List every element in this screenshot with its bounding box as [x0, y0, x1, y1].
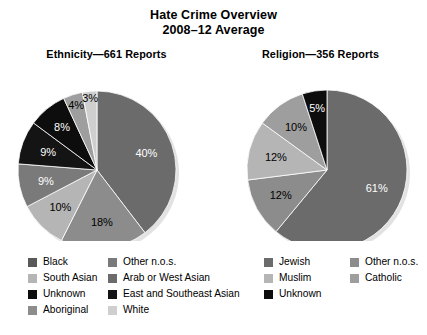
legend-label: Other n.o.s. — [365, 256, 418, 268]
legend-label: Unknown — [43, 288, 85, 300]
legend-label: Jewish — [279, 256, 310, 268]
title-line-2: 2008–12 Average — [0, 23, 427, 38]
chart-subtitle-religion: Religion—356 Reports — [214, 48, 427, 60]
legend-religion-item[interactable]: Jewish — [264, 254, 342, 270]
legend-swatch-icon — [350, 274, 359, 283]
legend-swatch-icon — [108, 274, 117, 283]
pie-slice-label: 18% — [91, 216, 113, 228]
legend-swatch-icon — [108, 290, 117, 299]
legend-ethnicity-item[interactable]: White — [108, 302, 220, 318]
legend-swatch-icon — [28, 258, 37, 267]
pie-slice-label: 61% — [366, 182, 388, 194]
pie-slice-label: 9% — [40, 146, 56, 158]
legend-swatch-icon — [28, 290, 37, 299]
legend-religion-item[interactable]: Muslim — [264, 270, 342, 286]
legend-label: Unknown — [279, 288, 321, 300]
pie-slice-label: 12% — [265, 151, 287, 163]
legend-swatch-icon — [28, 274, 37, 283]
page-title: Hate Crime Overview 2008–12 Average — [0, 8, 427, 38]
legend-religion-item[interactable]: Catholic — [350, 270, 427, 286]
pie-slice-label: 12% — [270, 189, 292, 201]
pie-slice-label: 8% — [54, 121, 70, 133]
chart-panel-ethnicity: Ethnicity—661 Reports 40%18%10%9%9%8%4%3… — [0, 48, 213, 248]
legend-label: South Asian — [43, 272, 97, 284]
legend-swatch-icon — [108, 258, 117, 267]
pie-slice-label: 3% — [82, 92, 98, 104]
legend-ethnicity-item[interactable]: Aboriginal — [28, 302, 100, 318]
legend-swatch-icon — [350, 258, 359, 267]
pie-slice-label: 10% — [285, 121, 307, 133]
pie-chart-ethnicity: 40%18%10%9%9%8%4%3% — [0, 66, 213, 241]
pie-slice-label: 5% — [309, 102, 325, 114]
legend-ethnicity-item[interactable]: Arab or West Asian — [108, 270, 220, 286]
legend-ethnicity-item[interactable]: South Asian — [28, 270, 100, 286]
legend-label: Aboriginal — [43, 304, 88, 316]
legend-swatch-icon — [264, 274, 273, 283]
legend-ethnicity-item[interactable]: Unknown — [28, 286, 100, 302]
pie-slice-label: 10% — [49, 201, 71, 213]
pie-slice-label: 9% — [38, 175, 54, 187]
legend-religion: JewishMuslimUnknownOther n.o.s.Catholic — [264, 254, 427, 302]
legend-label: Catholic — [365, 272, 402, 284]
legend-ethnicity-item[interactable]: Other n.o.s. — [108, 254, 220, 270]
pie-slice-label: 40% — [135, 147, 157, 159]
legend-swatch-icon — [264, 290, 273, 299]
legend-label: Other n.o.s. — [123, 256, 176, 268]
legend-ethnicity-item[interactable]: Black — [28, 254, 100, 270]
pie-svg-ethnicity: 40%18%10%9%9%8%4%3% — [0, 66, 213, 241]
legend-label: Black — [43, 256, 68, 268]
legend-label: East and Southeast Asian — [123, 288, 240, 300]
legend-swatch-icon — [264, 258, 273, 267]
title-line-1: Hate Crime Overview — [0, 8, 427, 23]
legend-swatch-icon — [108, 306, 117, 315]
legend-religion-item[interactable]: Unknown — [264, 286, 342, 302]
chart-panel-religion: Religion—356 Reports 61%12%12%10%5% — [214, 48, 427, 248]
legend-religion-item[interactable]: Other n.o.s. — [350, 254, 427, 270]
pie-chart-religion: 61%12%12%10%5% — [214, 66, 427, 241]
legend-swatch-icon — [28, 306, 37, 315]
legend-label: Muslim — [279, 272, 311, 284]
legend-label: Arab or West Asian — [123, 272, 210, 284]
legend-ethnicity-item[interactable]: East and Southeast Asian — [108, 286, 220, 302]
chart-subtitle-ethnicity: Ethnicity—661 Reports — [0, 48, 213, 60]
legend-label: White — [123, 304, 149, 316]
legend-ethnicity: BlackSouth AsianUnknownAboriginalOther n… — [28, 254, 220, 318]
pie-svg-religion: 61%12%12%10%5% — [214, 66, 427, 241]
